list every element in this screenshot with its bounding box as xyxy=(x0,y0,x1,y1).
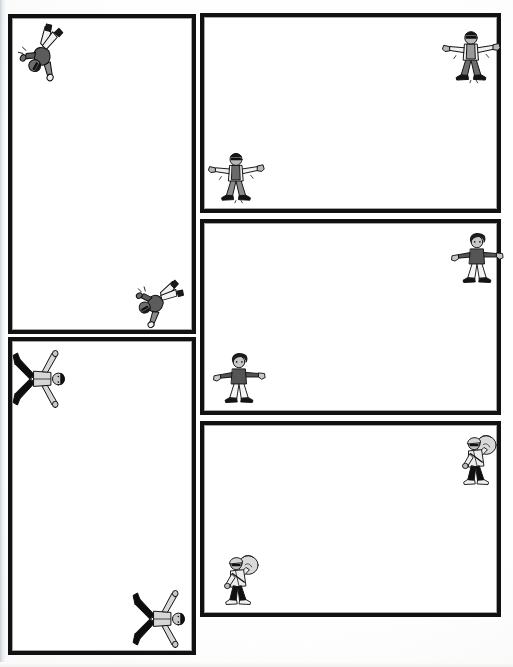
left-column-panel-top xyxy=(8,14,196,334)
right-column-panel-bottom xyxy=(200,421,501,617)
left-column-panel-bottom xyxy=(8,337,196,655)
scan-edge-shadow-left xyxy=(0,0,6,667)
scan-edge-shadow-bottom xyxy=(0,662,513,667)
comic-page xyxy=(0,0,513,667)
right-column-panel-middle xyxy=(200,219,501,415)
right-column-panel-top xyxy=(200,13,501,213)
